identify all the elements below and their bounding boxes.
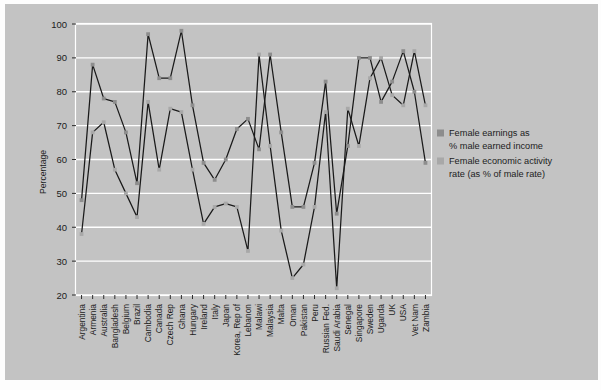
- data-point: [246, 117, 250, 121]
- data-point: [290, 205, 294, 209]
- y-axis-tick-label: 90: [56, 52, 67, 63]
- x-axis-category-label: Armenia: [88, 304, 98, 336]
- x-axis-category-label: Bangladesh: [110, 304, 120, 349]
- data-point: [401, 49, 405, 53]
- data-point: [124, 191, 128, 195]
- x-axis-category-label: Hungary: [188, 303, 198, 335]
- data-point: [191, 168, 195, 172]
- legend-label-line2: % male earned income: [449, 141, 543, 151]
- data-point: [279, 229, 283, 233]
- x-axis-category-label: Malta: [276, 304, 286, 325]
- x-axis-category-label: Argentina: [77, 304, 87, 340]
- data-point: [257, 147, 261, 151]
- data-point: [113, 100, 117, 104]
- data-point: [235, 205, 239, 209]
- x-axis-category-label: UK: [387, 304, 397, 316]
- data-point: [335, 286, 339, 290]
- data-point: [91, 131, 95, 135]
- y-axis-tick-label: 50: [56, 188, 67, 199]
- data-point: [224, 158, 228, 162]
- y-axis-title: Percentage: [38, 150, 48, 194]
- x-axis-category-label: Senegal: [343, 304, 353, 335]
- legend-marker: [437, 130, 444, 137]
- chart-legend: Female earnings as% male earned incomeFe…: [437, 128, 553, 179]
- x-axis-category-label: Cambodia: [143, 304, 153, 343]
- data-point: [302, 205, 306, 209]
- x-axis-category-label: Saudi Arabia: [332, 304, 342, 352]
- legend-label-line2: rate (as % of male rate): [449, 169, 545, 179]
- x-axis-category-label: USA: [398, 304, 408, 322]
- x-axis-category-label: Ghana: [177, 304, 187, 329]
- data-point: [146, 100, 150, 104]
- data-point: [302, 263, 306, 267]
- x-axis-category-label: Pakistan: [299, 304, 309, 336]
- data-point: [157, 76, 161, 80]
- data-point: [224, 202, 228, 206]
- data-point: [335, 212, 339, 216]
- data-point: [368, 76, 372, 80]
- data-point: [80, 232, 84, 236]
- x-axis-category-label: Brazil: [132, 304, 142, 325]
- data-point: [124, 131, 128, 135]
- data-point: [357, 144, 361, 148]
- data-point: [313, 205, 317, 209]
- data-point: [412, 49, 416, 53]
- data-point: [424, 161, 428, 165]
- data-point: [290, 276, 294, 280]
- data-point: [157, 168, 161, 172]
- data-point: [102, 120, 106, 124]
- series-1: [80, 29, 428, 216]
- y-axis-tick-label: 60: [56, 154, 67, 165]
- data-point: [424, 103, 428, 107]
- y-axis-tick-labels: 2030405060708090100: [51, 19, 67, 301]
- data-point: [179, 110, 183, 114]
- data-point: [346, 107, 350, 111]
- x-axis-category-label: Malaysia: [265, 304, 275, 337]
- data-point: [146, 32, 150, 36]
- data-point: [357, 56, 361, 60]
- y-axis-tick-label: 20: [56, 290, 67, 301]
- data-point: [412, 90, 416, 94]
- data-point: [91, 63, 95, 67]
- y-axis-tick-label: 100: [51, 19, 67, 30]
- x-axis-category-label: Russian Fed.: [321, 304, 331, 353]
- data-point: [246, 249, 250, 253]
- x-axis-category-label: Lebanon: [243, 304, 253, 337]
- data-point: [168, 107, 172, 111]
- data-point: [179, 29, 183, 33]
- data-point: [313, 161, 317, 165]
- data-point: [257, 53, 261, 57]
- legend-label-line1: Female economic activity: [449, 156, 553, 166]
- data-point: [324, 80, 328, 84]
- data-point: [346, 144, 350, 148]
- data-point: [135, 181, 139, 185]
- x-axis-category-label: Sweden: [365, 304, 375, 335]
- data-point: [379, 100, 383, 104]
- series-2: [80, 49, 428, 290]
- y-axis-tick-label: 70: [56, 120, 67, 131]
- x-axis-category-label: Czech Rep: [165, 304, 175, 346]
- x-axis-category-label: Zambia: [421, 304, 431, 332]
- figure-page: 2030405060708090100 Percentage Argentina…: [0, 0, 601, 390]
- x-axis-category-label: Oman: [288, 304, 298, 327]
- data-point: [113, 168, 117, 172]
- x-axis-category-label: Italy: [210, 303, 220, 319]
- data-point: [168, 76, 172, 80]
- data-point: [191, 103, 195, 107]
- data-point: [80, 198, 84, 202]
- legend-label-line1: Female earnings as: [449, 128, 530, 138]
- data-point: [135, 215, 139, 219]
- x-axis-category-label: Ireland: [199, 304, 209, 330]
- data-point: [102, 97, 106, 101]
- x-axis-category-label: Belgium: [121, 304, 131, 334]
- data-point: [324, 110, 328, 114]
- y-axis-tick-label: 80: [56, 86, 67, 97]
- x-axis-category-label: Japan: [221, 304, 231, 327]
- chart-svg: 2030405060708090100 Percentage Argentina…: [0, 0, 601, 390]
- line-chart: 2030405060708090100 Percentage Argentina…: [0, 0, 601, 390]
- x-axis-category-label: Korea, Rep of: [232, 303, 242, 355]
- data-point: [268, 144, 272, 148]
- x-axis-category-labels: ArgentinaArmeniaAustraliaBangladeshBelgi…: [77, 303, 431, 355]
- data-point: [268, 53, 272, 57]
- data-point: [390, 93, 394, 97]
